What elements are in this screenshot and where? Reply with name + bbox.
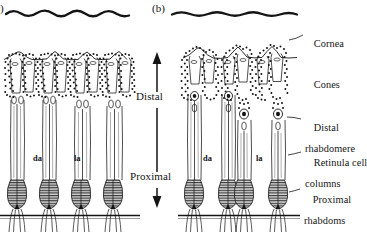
side-label-proximal-line2: rhabdoms — [302, 216, 351, 227]
distal-rhabdomeres-b — [192, 104, 280, 130]
inline-label-da-b: da — [203, 155, 212, 164]
rhabdom-base-nuclei-a — [15, 204, 116, 209]
leader-line-distal-rhabdomere — [287, 117, 301, 119]
inline-label-la-a: la — [74, 155, 81, 164]
leader-line-proximal-rhabdoms — [289, 189, 300, 192]
leader-line-cones — [289, 35, 303, 40]
retinula-inner-lines-a — [14, 106, 119, 178]
rhabdom-base-nuclei-b — [192, 204, 281, 209]
cone-bodies-b — [189, 54, 283, 85]
panel-label-b: (b) — [152, 3, 165, 14]
panel-a-group — [0, 11, 140, 232]
side-label-proximal-rhabdoms: Proximal rhabdoms — [302, 184, 351, 236]
axon-bundles-a — [9, 209, 121, 232]
panel-b-group — [172, 12, 300, 232]
side-label-cornea: Cornea — [303, 28, 344, 60]
cornea-surface-a — [6, 11, 129, 17]
axis-label-distal: Distal — [136, 91, 163, 102]
side-label-cornea-line1: Cornea — [314, 38, 344, 49]
retinula-inner-lines-b — [191, 102, 281, 178]
axon-bundles-b — [186, 209, 286, 232]
compound-eye-figure: ) (b) Distal Proximal da la da la Cornea… — [0, 0, 367, 236]
leader-lines — [287, 35, 303, 192]
proximal-rhabdoms-b — [184, 180, 287, 209]
inline-label-da-a: da — [33, 155, 42, 164]
rhabdom-axis-lines-a — [17, 180, 113, 209]
panel-label-a: ) — [0, 3, 4, 14]
orientation-arrow-group — [153, 52, 162, 208]
axis-label-proximal: Proximal — [130, 171, 171, 182]
leader-line-retinula — [288, 152, 301, 155]
side-label-proximal-line1: Proximal — [313, 194, 352, 205]
side-label-distal-rhabdomere-line1: Distal — [314, 122, 339, 133]
proximal-rhabdoms-a — [7, 180, 122, 209]
distal-rhabdomeres-a — [12, 96, 121, 108]
side-label-cones-line1: Cones — [314, 79, 340, 90]
side-label-cones: Cones — [303, 69, 340, 101]
retinula-columns-b — [188, 95, 286, 180]
inline-label-la-b: la — [256, 155, 263, 164]
cornea-surface-b — [172, 12, 297, 16]
side-label-retinula-line1: Retinula cell — [314, 157, 367, 168]
retinula-columns-a — [11, 100, 123, 180]
